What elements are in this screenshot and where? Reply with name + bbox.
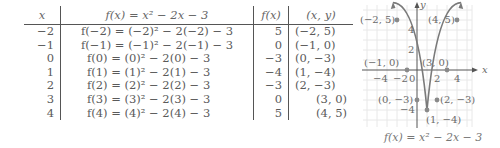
point-label: (0, −3)	[378, 94, 413, 105]
cell-point: (1, −4)	[289, 66, 354, 80]
cell-point: (2, −3)	[289, 79, 354, 93]
x-tick: 2	[434, 73, 440, 84]
graph-labels: x y −4 −2 0 2 4 4 2 −4 (−2, 5) (4, 5) (−…	[360, 0, 488, 125]
point-label: (−1, 0)	[364, 57, 399, 68]
table-row: 4 f(4) = (4)² − 2(4) − 3 5 (4, 5)	[24, 107, 353, 121]
table-row: 3 f(3) = (3)² − 2(3) − 3 0 (3, 0)	[24, 93, 353, 107]
graph-canvas: x y −4 −2 0 2 4 4 2 −4 (−2, 5) (4, 5) (−…	[360, 0, 500, 148]
cell-expression: f(−2) = (−2)² − 2(−2) − 3	[61, 25, 254, 39]
y-axis-arrow-icon	[415, 2, 420, 8]
cell-x: 3	[24, 93, 61, 107]
header-point: (x, y)	[289, 6, 354, 25]
cell-fx: 0	[254, 93, 289, 107]
table-row: 0 f(0) = (0)² − 2(0) − 3 −3 (0, −3)	[24, 52, 353, 66]
table-row: 2 f(2) = (2)² − 2(2) − 3 −3 (2, −3)	[24, 79, 353, 93]
cell-fx: −3	[254, 79, 289, 93]
x-tick: −2	[393, 73, 408, 84]
header-fx: f(x)	[254, 6, 289, 25]
point-label: (3, 0)	[422, 57, 449, 68]
cell-fx: 5	[254, 107, 289, 121]
cell-fx: 5	[254, 25, 289, 39]
x-axis-label: x	[482, 64, 488, 75]
values-table: x f(x) = x² − 2x − 3 f(x) (x, y) −2 f(−2…	[24, 6, 353, 120]
point-label: (2, −3)	[440, 94, 475, 105]
cell-x: 1	[24, 66, 61, 80]
table-header-row: x f(x) = x² − 2x − 3 f(x) (x, y)	[24, 6, 353, 25]
table-row: −1 f(−1) = (−1)² − 2(−1) − 3 0 (−1, 0)	[24, 39, 353, 53]
cell-point: (0, −3)	[289, 52, 354, 66]
cell-point: (−2, 5)	[289, 25, 354, 39]
x-tick: −4	[373, 73, 388, 84]
cell-expression: f(−1) = (−1)² − 2(−1) − 3	[61, 39, 254, 53]
point-label: (−2, 5)	[360, 14, 395, 25]
cell-fx: 0	[254, 39, 289, 53]
parabola-graph: x y −4 −2 0 2 4 4 2 −4 (−2, 5) (4, 5) (−…	[360, 0, 500, 148]
cell-x: 0	[24, 52, 61, 66]
cell-fx: −4	[254, 66, 289, 80]
y-tick: 2	[408, 44, 414, 55]
cell-x: −1	[24, 39, 61, 53]
cell-x: 2	[24, 79, 61, 93]
cell-fx: −3	[254, 52, 289, 66]
function-caption: f(x) = x² − 2x − 3	[384, 131, 482, 144]
cell-expression: f(4) = (4)² − 2(4) − 3	[61, 107, 254, 121]
cell-x: 4	[24, 107, 61, 121]
x-tick: 4	[454, 73, 460, 84]
y-tick: 4	[408, 24, 414, 35]
y-tick: −4	[400, 104, 415, 115]
cell-expression: f(0) = (0)² − 2(0) − 3	[61, 52, 254, 66]
point-label: (4, 5)	[428, 14, 455, 25]
table-row: −2 f(−2) = (−2)² − 2(−2) − 3 5 (−2, 5)	[24, 25, 353, 39]
header-expression: f(x) = x² − 2x − 3	[61, 6, 254, 25]
x-tick: 0	[409, 73, 415, 84]
y-axis-label: y	[419, 0, 426, 10]
point-label: (1, −4)	[426, 114, 461, 125]
header-x: x	[24, 6, 61, 25]
cell-expression: f(2) = (2)² − 2(2) − 3	[61, 79, 254, 93]
cell-point: (3, 0)	[289, 93, 354, 107]
x-axis-arrow-icon	[472, 68, 478, 73]
cell-x: −2	[24, 25, 61, 39]
cell-expression: f(1) = (1)² − 2(1) − 3	[61, 66, 254, 80]
table-row: 1 f(1) = (1)² − 2(1) − 3 −4 (1, −4)	[24, 66, 353, 80]
cell-point: (−1, 0)	[289, 39, 354, 53]
cell-expression: f(3) = (3)² − 2(3) − 3	[61, 93, 254, 107]
cell-point: (4, 5)	[289, 107, 354, 121]
